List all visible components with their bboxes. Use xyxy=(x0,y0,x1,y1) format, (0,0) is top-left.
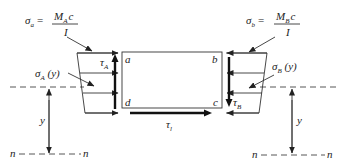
svg-text:τA: τA xyxy=(100,56,109,71)
svg-text:n: n xyxy=(327,148,333,160)
formula-sigma-b: σb= MBc I xyxy=(246,10,300,38)
svg-text:τl: τl xyxy=(166,118,172,133)
svg-text:σB (y): σB (y) xyxy=(272,60,297,75)
arrowhead-icon xyxy=(226,99,233,107)
element-abcd xyxy=(122,52,222,108)
svg-text:n: n xyxy=(10,147,16,159)
svg-text:n: n xyxy=(252,148,258,160)
svg-text:d: d xyxy=(125,96,131,108)
svg-text:σA (y): σA (y) xyxy=(35,67,60,82)
svg-text:n: n xyxy=(83,147,89,159)
formula-sigma-a: σa= MAc I xyxy=(25,10,78,38)
pointer-arrow-sigma-a xyxy=(67,37,92,51)
svg-text:a: a xyxy=(125,53,131,65)
svg-text:MBc: MBc xyxy=(275,10,295,25)
svg-text:τB: τB xyxy=(233,96,242,111)
svg-text:I: I xyxy=(285,26,291,38)
pointer-arrow-sigma-b-y xyxy=(249,75,274,88)
pointer-arrow-sigma-b xyxy=(249,37,275,52)
svg-text:y: y xyxy=(39,114,45,126)
svg-text:MAc: MAc xyxy=(53,10,73,25)
svg-text:c: c xyxy=(213,96,218,108)
arrowhead-icon xyxy=(204,110,212,117)
beam-stress-diagram: σa= MAc I σb= MBc I τA σA (y) a b c d τl… xyxy=(0,0,343,165)
arrowhead-icon xyxy=(112,54,119,62)
svg-text:σa=: σa= xyxy=(25,14,43,29)
svg-text:b: b xyxy=(212,53,218,65)
svg-text:I: I xyxy=(63,26,69,38)
svg-text:σb=: σb= xyxy=(246,14,264,29)
svg-text:y: y xyxy=(296,114,302,126)
